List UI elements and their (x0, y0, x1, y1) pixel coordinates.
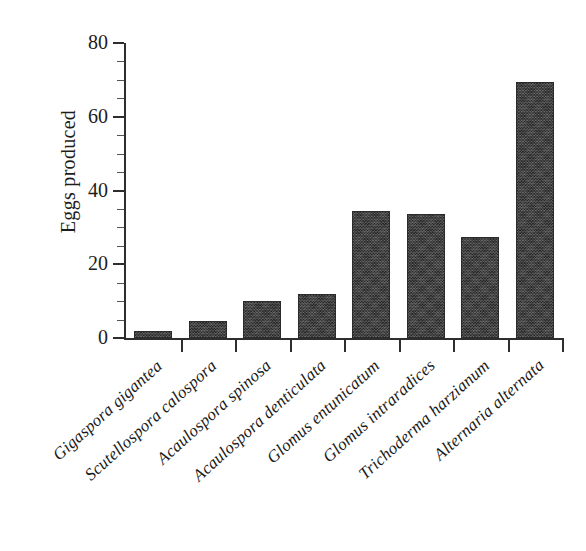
y-tick-minor (117, 246, 124, 247)
plot-area (126, 43, 562, 338)
y-tick-label: 40 (66, 180, 108, 200)
bar (298, 294, 336, 338)
x-tick (399, 340, 401, 352)
y-tick-minor (117, 98, 124, 99)
x-tick (181, 340, 183, 352)
y-tick-minor (117, 154, 124, 155)
y-tick-minor (117, 227, 124, 228)
x-tick (290, 340, 292, 352)
y-tick-minor (117, 80, 124, 81)
y-tick-minor (117, 61, 124, 62)
y-tick-0 (113, 337, 124, 339)
x-tick (235, 340, 237, 352)
y-tick-minor (117, 209, 124, 210)
y-tick-minor (117, 135, 124, 136)
x-tick (562, 340, 564, 352)
bar (134, 331, 172, 338)
bar (243, 301, 281, 338)
x-tick (344, 340, 346, 352)
bar-chart: Eggs produced 020406080 Gigaspora gigant… (0, 0, 586, 551)
y-tick-80 (113, 42, 124, 44)
y-tick-label: 0 (66, 327, 108, 347)
bar (407, 214, 445, 338)
y-tick-40 (113, 190, 124, 192)
y-tick-label: 20 (66, 253, 108, 273)
bar (189, 321, 227, 338)
x-tick (453, 340, 455, 352)
y-tick-60 (113, 116, 124, 118)
bar (461, 237, 499, 338)
y-tick-label: 80 (66, 32, 108, 52)
y-tick-minor (117, 320, 124, 321)
bar (352, 211, 390, 338)
y-tick-20 (113, 263, 124, 265)
y-tick-label: 60 (66, 106, 108, 126)
y-tick-minor (117, 283, 124, 284)
bar (516, 82, 554, 338)
y-tick-minor (117, 172, 124, 173)
x-tick (508, 340, 510, 352)
y-tick-minor (117, 301, 124, 302)
